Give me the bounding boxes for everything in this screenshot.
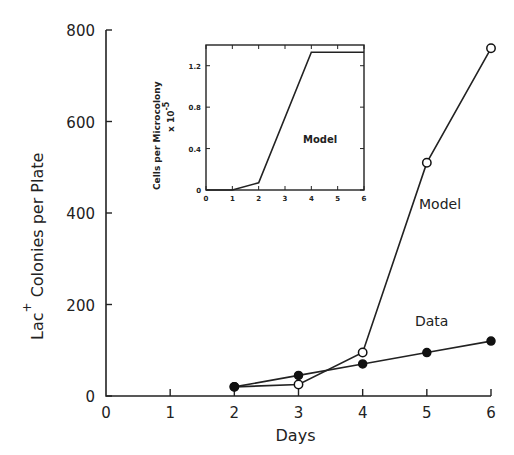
y-tick-label: 600 [66, 114, 95, 132]
x-tick-label: 3 [294, 404, 304, 422]
chart-canvas: 02004006008000123456DaysLac+ Colonies pe… [0, 0, 514, 455]
filled-circle-marker [487, 337, 495, 345]
y-tick-label: 800 [66, 22, 95, 40]
inset-x-tick-label: 5 [335, 195, 340, 203]
x-tick-label: 2 [230, 404, 240, 422]
filled-circle-marker [359, 360, 367, 368]
inset-x-tick-label: 6 [362, 195, 367, 203]
inset-y-tick-label: 0.4 [189, 146, 202, 154]
x-tick-label: 4 [358, 404, 368, 422]
inset-x-tick-label: 4 [309, 195, 314, 203]
inset-y-axis-title: Cells per Microcolony [152, 81, 162, 190]
inset-model-label: Model [303, 134, 337, 145]
inset-y-tick-label: 1.2 [189, 63, 202, 71]
x-axis-title: Days [276, 426, 316, 445]
y-tick-label: 400 [66, 205, 95, 223]
filled-circle-marker [230, 383, 238, 391]
inset-x-tick-label: 3 [283, 195, 288, 203]
x-tick-label: 0 [101, 404, 111, 422]
y-tick-label: 200 [66, 297, 95, 315]
y-axis-title: Lac+ Colonies per Plate [20, 153, 47, 340]
inset-y-tick-label: 0.8 [189, 104, 202, 112]
open-circle-marker [294, 380, 302, 388]
inset-x-tick-label: 0 [204, 195, 209, 203]
open-circle-marker [358, 348, 366, 356]
inset-y-tick-label: 0 [196, 187, 201, 195]
open-circle-marker [423, 158, 431, 166]
x-tick-label: 5 [422, 404, 432, 422]
open-circle-marker [487, 44, 495, 52]
data-label: Data [415, 313, 448, 329]
x-tick-label: 1 [165, 404, 175, 422]
inset-x-tick-label: 1 [230, 195, 235, 203]
x-tick-label: 6 [486, 404, 496, 422]
inset-y-axis-multiplier: x 10-5 [162, 101, 176, 132]
y-tick-label: 0 [85, 388, 95, 406]
filled-circle-marker [295, 371, 303, 379]
filled-circle-marker [423, 349, 431, 357]
model-label: Model [419, 196, 461, 212]
inset-x-tick-label: 2 [256, 195, 261, 203]
